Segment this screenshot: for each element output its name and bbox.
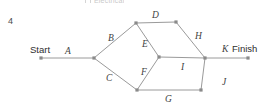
edge-label-i: I — [181, 63, 184, 73]
merge-node — [203, 56, 206, 59]
lower-node-right — [199, 88, 202, 91]
diagram-canvas: Electrical 4 ABCDEFGHIJK StartFinish — [0, 0, 272, 109]
edge-label-g: G — [165, 95, 172, 105]
edge-label-d: D — [152, 11, 159, 21]
nodes-group — [39, 20, 249, 91]
edge-d — [136, 22, 176, 23]
finish-label: Finish — [232, 44, 257, 54]
edge-label-k: K — [222, 45, 228, 55]
edge-label-e: E — [142, 40, 148, 50]
edge-label-a: A — [65, 47, 71, 57]
edges-group — [41, 22, 248, 90]
edge-label-h: H — [195, 32, 202, 42]
edge-label-b: B — [108, 34, 114, 44]
junction-node-1 — [92, 56, 95, 59]
start-label: Start — [30, 45, 50, 55]
edge-b — [94, 23, 136, 58]
upper-node-right — [174, 20, 177, 23]
edge-c — [94, 58, 137, 90]
upper-node-left — [134, 21, 137, 24]
finish-node — [246, 56, 249, 59]
edge-j — [201, 58, 205, 90]
edge-label-f: F — [141, 68, 147, 78]
edge-label-c: C — [106, 74, 112, 84]
center-node — [157, 55, 160, 58]
edge-label-j: J — [222, 78, 226, 88]
lower-node-left — [135, 88, 138, 91]
start-node — [39, 56, 42, 59]
edge-i — [159, 57, 205, 58]
